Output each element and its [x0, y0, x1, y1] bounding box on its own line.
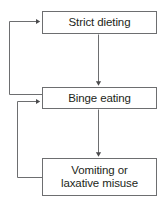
node-strict-dieting: Strict dieting — [42, 11, 157, 34]
node-vomiting-laxative-misuse-label: Vomiting or laxative misuse — [61, 164, 138, 190]
node-binge-eating-label: Binge eating — [68, 92, 131, 105]
node-vomiting-laxative-misuse: Vomiting or laxative misuse — [42, 158, 157, 196]
node-strict-dieting-label: Strict dieting — [69, 16, 131, 29]
node-binge-eating: Binge eating — [42, 87, 157, 109]
arrow-vomiting-to-binge-eating-loop — [18, 102, 43, 178]
flowchart-diagram: Strict dieting Binge eating Vomiting or … — [0, 0, 163, 209]
arrow-binge-eating-to-strict-dieting-loop — [10, 22, 43, 95]
